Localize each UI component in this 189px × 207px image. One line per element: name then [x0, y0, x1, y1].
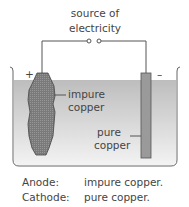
- cathode-label-line1: pure: [97, 126, 121, 138]
- switch-terminal-right: [97, 39, 101, 43]
- anode-impure-copper: [28, 73, 55, 155]
- anode-label-line2: copper: [68, 101, 105, 113]
- legend-anode-value: impure copper.: [84, 176, 163, 188]
- legend-cathode-value: pure copper.: [84, 191, 150, 203]
- cathode-sign: –: [157, 68, 162, 80]
- anode-sign: +: [25, 68, 34, 80]
- circuit-wire: [42, 39, 146, 73]
- cathode-label-line2: copper: [94, 139, 131, 151]
- cathode-pure-copper: [141, 73, 151, 158]
- power-source-label-line1: source of: [71, 7, 120, 19]
- switch-terminal-left: [87, 39, 91, 43]
- power-source-label-line2: electricity: [69, 22, 121, 34]
- legend-cathode-term: Cathode:: [22, 191, 70, 203]
- legend-anode-term: Anode:: [22, 176, 59, 188]
- anode-label-line1: impure: [68, 88, 105, 100]
